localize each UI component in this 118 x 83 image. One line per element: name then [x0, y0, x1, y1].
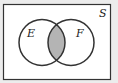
set-e-label: E: [26, 27, 35, 40]
venn-diagram: E F S: [0, 0, 118, 83]
universe-label: S: [99, 7, 107, 20]
set-f-label: F: [75, 27, 84, 40]
